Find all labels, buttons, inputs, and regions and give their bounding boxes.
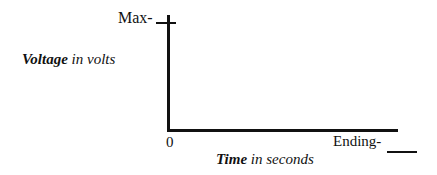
x-axis-label-bold: Time [216,151,247,167]
x-axis-label: Time in seconds [216,151,314,168]
y-axis-label: Voltage in volts [22,51,115,68]
y-max-label: Max- [118,9,176,27]
y-max-blank [156,22,176,24]
x-axis-label-rest: in seconds [247,151,314,167]
x-axis [167,129,398,132]
y-axis [167,15,170,132]
x-end-blank [387,151,417,153]
y-axis-label-bold: Voltage [22,51,68,67]
x-end-label: Ending- [333,133,381,150]
y-axis-label-rest: in volts [68,51,116,67]
y-max-text: Max- [118,9,153,26]
x-origin-label: 0 [166,134,174,151]
